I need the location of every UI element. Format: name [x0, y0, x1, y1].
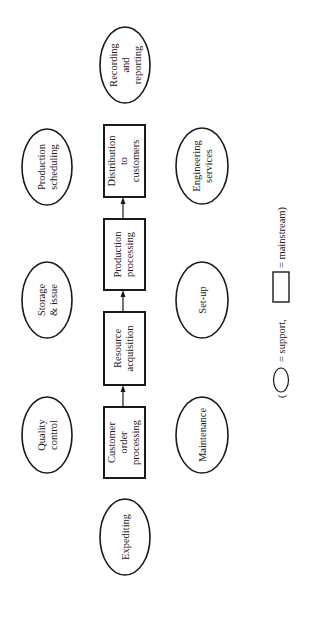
node-label-line: Engineering [191, 140, 202, 192]
node-label-line: Distribution [106, 135, 117, 187]
legend: ( = support, = mainstream) [273, 206, 289, 398]
node-label-line: control [48, 420, 59, 450]
support-ellipse-maintenance: Maintenance [176, 397, 228, 473]
support-ellipse-quality-control: Quality control [22, 397, 72, 473]
legend-support-label: = support, [276, 319, 287, 362]
mainstream-box-distribution-to-customers: Distribution to customers [104, 125, 145, 197]
node-label-line: Expediting [120, 513, 131, 560]
legend-support-ellipse-icon [274, 368, 289, 392]
node-label-line: services [203, 149, 214, 183]
legend-open-paren: ( [276, 394, 288, 398]
support-ellipse-expediting: Expediting [100, 499, 150, 575]
node-label-line: order [118, 431, 129, 454]
node-label-line: customers [130, 140, 141, 183]
flow-arrow-production-to-distribution [121, 197, 126, 219]
node-label-line: Set-up [197, 286, 208, 313]
node-label-line: Customer [106, 422, 117, 463]
node-label-line: to [118, 157, 129, 165]
node-label-line: scheduling [48, 144, 59, 190]
node-label-line: processing [130, 419, 141, 465]
node-label-line: Recording [108, 42, 119, 86]
diagram-svg: Customer order processing Resource acqui… [0, 0, 310, 637]
node-label-line: Resource [112, 329, 123, 368]
support-ellipse-production-scheduling: Production scheduling [22, 129, 72, 205]
support-ellipse-set-up: Set-up [176, 262, 228, 338]
node-label-line: and [120, 57, 131, 73]
node-label-line: Production [36, 143, 47, 190]
mainstream-box-resource-acquisition: Resource acquisition [104, 312, 145, 385]
flow-arrow-resource-to-production [121, 290, 126, 312]
legend-mainstream-label: = mainstream) [276, 206, 288, 268]
node-label-line: & issue [48, 284, 59, 316]
diagram-canvas: Customer order processing Resource acqui… [0, 0, 310, 637]
mainstream-box-customer-order-processing: Customer order processing [104, 407, 145, 478]
mainstream-box-production-processing: Production processing [104, 219, 145, 290]
node-label-line: reporting [132, 45, 143, 84]
node-label-line: processing [124, 231, 135, 277]
node-label-line: Quality [36, 419, 47, 451]
support-ellipse-storage-issue: Storage & issue [22, 262, 72, 338]
legend-mainstream-rect-icon [273, 272, 289, 302]
node-label-line: Maintenance [197, 408, 208, 463]
node-label-line: Storage [36, 284, 47, 316]
node-label-line: Production [112, 231, 123, 278]
support-ellipse-engineering-services: Engineering services [176, 128, 228, 204]
flow-arrow-customer-to-resource [121, 385, 126, 407]
node-label-line: acquisition [124, 325, 135, 372]
support-ellipse-recording-reporting: Recording and reporting [100, 27, 150, 103]
